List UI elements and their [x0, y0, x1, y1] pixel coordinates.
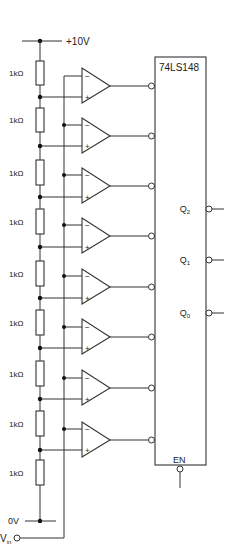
comparator-f: −+F: [38, 168, 164, 203]
supply-label-bottom: 0V: [8, 516, 19, 526]
resistor-label: 1kΩ: [9, 469, 23, 478]
comparator-h: −+H: [38, 68, 165, 103]
supply-rail-bottom: 0V: [8, 516, 56, 526]
enable-bubble: [177, 466, 183, 472]
supply-rail-top: +10V: [22, 36, 90, 47]
encoder-chip: 74LS148 Q2Q1Q0 EN: [155, 57, 224, 488]
comparator-d: −+D: [38, 269, 165, 304]
input-bubble: [149, 385, 155, 391]
resistor: [36, 460, 44, 485]
resistor: [36, 160, 44, 185]
plus-sign: +: [85, 446, 90, 455]
input-bubble: [149, 83, 155, 89]
comparator-g: −+G: [38, 118, 166, 153]
output-bubble: [206, 257, 212, 263]
input-bubble: [149, 284, 155, 290]
plus-sign: +: [85, 395, 90, 404]
plus-sign: +: [85, 142, 90, 151]
vin-label: Vin: [0, 533, 11, 545]
resistor: [36, 361, 44, 386]
resistor: [36, 61, 44, 85]
resistor-label: 1kΩ: [9, 169, 23, 178]
minus-sign: −: [85, 121, 90, 130]
minus-sign: −: [85, 72, 90, 81]
input-bubble: [149, 437, 155, 443]
plus-sign: +: [85, 294, 90, 303]
resistor-label: 1kΩ: [9, 370, 23, 379]
minus-sign: −: [85, 374, 90, 383]
resistor: [36, 209, 44, 234]
minus-sign: −: [85, 323, 90, 332]
input-bubble: [149, 233, 155, 239]
resistor: [36, 108, 44, 132]
resistor-label: 1kΩ: [9, 116, 23, 125]
enable-label: EN: [173, 455, 186, 465]
output-bubble: [206, 206, 212, 212]
resistor-label: 1kΩ: [9, 69, 23, 78]
resistor: [36, 310, 44, 335]
minus-sign: −: [85, 425, 90, 434]
input-bubble: [149, 183, 155, 189]
encoder-enable: EN: [173, 455, 186, 488]
input-bubble: [149, 133, 155, 139]
resistor-label: 1kΩ: [9, 420, 23, 429]
supply-label-top: +10V: [66, 36, 90, 47]
minus-sign: −: [85, 221, 90, 230]
plus-sign: +: [85, 243, 90, 252]
comparator-e: −+E: [38, 218, 165, 253]
resistor-label: 1kΩ: [9, 218, 23, 227]
output-bubble: [206, 310, 212, 316]
resistor-label: 1kΩ: [9, 319, 23, 328]
plus-sign: +: [85, 344, 90, 353]
vin-terminal-bubble: [14, 535, 20, 541]
flash-adc-circuit-diagram: +10V 1kΩ1kΩ1kΩ1kΩ1kΩ1kΩ1kΩ1kΩ1kΩ −+H−+G−…: [0, 0, 232, 550]
comparators: −+H−+G−+F−+E−+D−+C−+B−+A: [38, 68, 166, 457]
resistor: [36, 411, 44, 436]
minus-sign: −: [85, 171, 90, 180]
resistor: [36, 261, 44, 286]
comparator-c: −+C: [38, 319, 165, 354]
plus-sign: +: [85, 193, 90, 202]
minus-sign: −: [85, 272, 90, 281]
comparator-a: −+A: [38, 422, 165, 457]
resistor-label: 1kΩ: [9, 270, 23, 279]
comparator-b: −+B: [38, 370, 165, 405]
encoder-part-number: 74LS148: [159, 62, 199, 73]
vin-terminal: Vin: [0, 533, 64, 545]
plus-sign: +: [85, 93, 90, 102]
input-bubble: [149, 334, 155, 340]
